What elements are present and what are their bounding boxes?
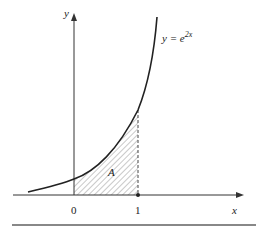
- curve-label-base: y = e: [162, 32, 185, 44]
- y-axis-arrow-icon: [71, 13, 77, 21]
- x-axis-label: x: [232, 204, 237, 216]
- point-x1: [136, 193, 140, 197]
- tick-label-0: 0: [71, 204, 77, 216]
- tick-label-1: 1: [135, 204, 141, 216]
- curve-label-exponent: 2x: [185, 30, 193, 39]
- region-label: A: [108, 166, 115, 178]
- figure: y x y = e2x A 0 1: [0, 0, 256, 226]
- curve-label: y = e2x: [162, 30, 192, 44]
- shaded-region: [74, 110, 138, 195]
- y-axis-label: y: [64, 7, 69, 19]
- x-axis-arrow-icon: [236, 192, 244, 198]
- graph: [0, 0, 256, 226]
